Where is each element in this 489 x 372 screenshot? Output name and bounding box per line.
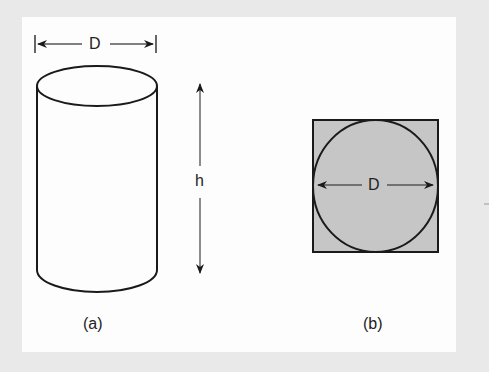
- caption-a: (a): [83, 315, 103, 333]
- diameter-label-a: D: [89, 35, 101, 53]
- diameter-label-b: D: [368, 176, 380, 194]
- caption-b: (b): [363, 315, 383, 333]
- diagram-svg: [0, 0, 489, 372]
- cylinder: [37, 66, 157, 292]
- height-label: h: [195, 172, 204, 190]
